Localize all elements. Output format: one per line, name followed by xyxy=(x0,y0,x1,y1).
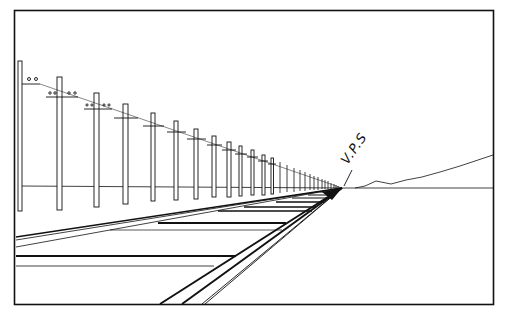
pole xyxy=(187,129,206,199)
ground-lines xyxy=(16,188,342,247)
pole xyxy=(114,104,138,204)
pole xyxy=(207,136,222,197)
telegraph-poles xyxy=(18,61,342,211)
crossarm-line xyxy=(40,84,342,188)
pole xyxy=(247,150,258,195)
hill-outline xyxy=(355,155,493,188)
pole xyxy=(268,158,276,194)
pole xyxy=(18,61,40,211)
pole xyxy=(46,77,78,210)
horizontal-bands xyxy=(16,192,338,266)
vps-leader-line xyxy=(344,170,352,186)
railway-tracks xyxy=(160,188,342,304)
pole xyxy=(167,121,186,200)
pole xyxy=(235,146,247,196)
pole xyxy=(84,93,112,207)
perspective-drawing xyxy=(0,0,505,318)
pole xyxy=(222,142,236,197)
distant-poles xyxy=(280,162,338,193)
pole xyxy=(143,113,164,201)
